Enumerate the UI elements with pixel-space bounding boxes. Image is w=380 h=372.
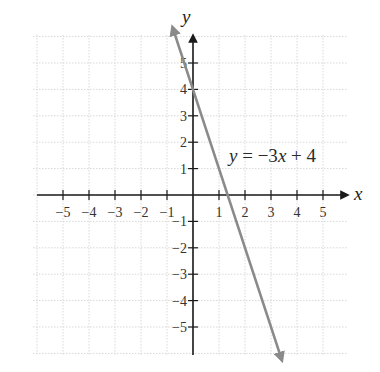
x-tick-label: −3 (108, 205, 123, 220)
coordinate-plane: −5−4−3−2−11234554321−1−2−3−4−5 x y y = −… (0, 0, 380, 372)
line-y-eq-neg3x-plus-4 (173, 29, 281, 359)
y-tick-label: −2 (172, 241, 187, 256)
y-tick-label: 3 (180, 109, 187, 124)
x-tick-label: 2 (242, 205, 249, 220)
equation-y: y (227, 145, 238, 166)
x-tick-label: 4 (294, 205, 301, 220)
y-tick-label: 2 (180, 135, 187, 150)
x-tick-label: 1 (216, 205, 223, 220)
x-tick-label: 5 (320, 205, 327, 220)
y-axis-label: y (180, 6, 191, 27)
equation-rest: + 4 (286, 145, 316, 166)
plotted-line (173, 29, 281, 359)
y-tick-label: 4 (180, 82, 187, 97)
y-tick-label: 1 (180, 162, 187, 177)
equation-label: y = −3x + 4 (227, 145, 317, 166)
y-tick-label: −3 (172, 267, 187, 282)
x-tick-label: −2 (134, 205, 149, 220)
y-tick-label: −5 (172, 320, 187, 335)
y-tick-label: −4 (172, 294, 187, 309)
equation-eq: = −3 (237, 145, 277, 166)
x-tick-label: 3 (268, 205, 275, 220)
x-axis-label: x (353, 183, 363, 204)
y-tick-label: −1 (172, 214, 187, 229)
x-tick-label: −5 (56, 205, 71, 220)
x-tick-label: −4 (82, 205, 97, 220)
